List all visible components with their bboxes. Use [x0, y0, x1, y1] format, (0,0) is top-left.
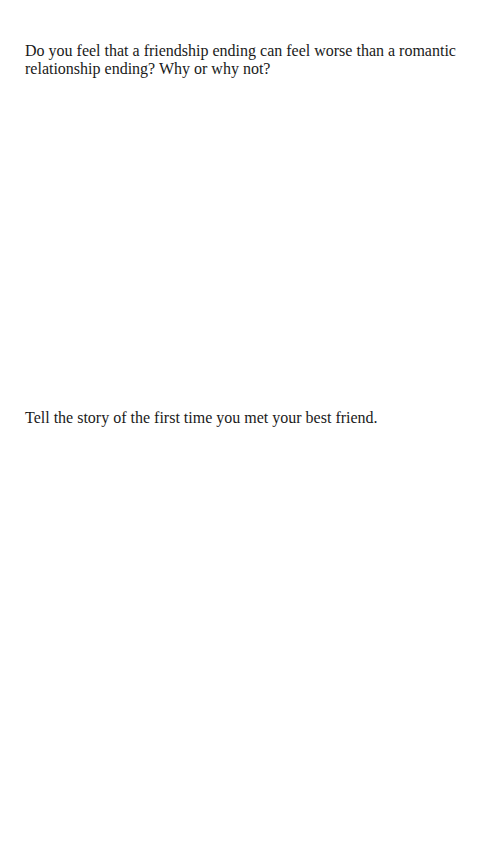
journal-prompt-2: Tell the story of the first time you met…	[25, 409, 465, 427]
answer-space-1	[25, 84, 465, 394]
journal-prompt-1: Do you feel that a friendship ending can…	[25, 42, 465, 78]
answer-space-2	[25, 432, 465, 852]
